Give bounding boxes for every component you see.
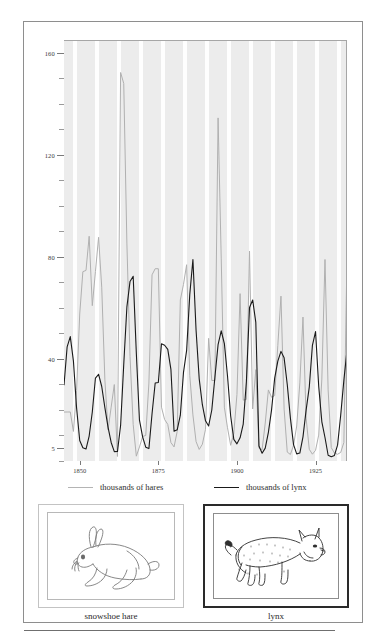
- panel-inner-lynx: [213, 513, 339, 599]
- y-tick-major: [57, 53, 64, 54]
- series-lines: [64, 41, 347, 461]
- legend-label-hares: thousands of hares: [100, 482, 163, 492]
- hare-series-line: [64, 73, 347, 457]
- x-tick-label: 1850: [73, 467, 86, 474]
- panel-captions: snowshoe hare lynx: [38, 611, 349, 627]
- bottom-divider: [24, 630, 335, 631]
- lynx-illustration-icon: [220, 521, 332, 591]
- legend-label-lynx: thousands of lynx: [246, 482, 306, 492]
- y-tick-major: [57, 448, 64, 449]
- panel-lynx: [203, 504, 349, 608]
- legend-entry-lynx: thousands of lynx: [214, 482, 306, 492]
- y-tick-label: 120: [45, 151, 55, 158]
- x-tick-label: 1875: [152, 467, 165, 474]
- chart-legend: thousands of hares thousands of lynx: [38, 482, 349, 498]
- hare-illustration-icon: [55, 521, 167, 591]
- y-tick-label: 5: [52, 445, 55, 452]
- x-tick-label: 1925: [309, 467, 322, 474]
- y-tick-label: 40: [48, 355, 55, 362]
- caption-snowshoe-hare: snowshoe hare: [38, 611, 184, 621]
- illustration-panels: [38, 504, 349, 608]
- x-axis: 1850187519001925: [64, 461, 347, 481]
- x-tick: [158, 461, 159, 465]
- plot-area: [64, 40, 347, 461]
- y-tick-label: 80: [48, 253, 55, 260]
- panel-snowshoe-hare: [38, 504, 184, 608]
- y-tick-major: [57, 359, 64, 360]
- y-tick-major: [57, 155, 64, 156]
- y-tick-major: [57, 257, 64, 258]
- hare-lynx-chart: 54080120160 1850187519001925: [38, 37, 349, 477]
- legend-entry-hares: thousands of hares: [68, 482, 163, 492]
- legend-swatch-hares: [68, 487, 93, 488]
- x-tick: [80, 461, 81, 465]
- x-tick-label: 1900: [230, 467, 243, 474]
- y-axis: 54080120160: [38, 37, 64, 461]
- panel-inner-hare: [47, 512, 175, 600]
- legend-swatch-lynx: [214, 487, 239, 488]
- figure-frame: 54080120160 1850187519001925 thousands o…: [23, 21, 363, 623]
- x-tick: [316, 461, 317, 465]
- caption-lynx: lynx: [203, 611, 349, 621]
- y-tick-label: 160: [45, 49, 55, 56]
- x-tick: [237, 461, 238, 465]
